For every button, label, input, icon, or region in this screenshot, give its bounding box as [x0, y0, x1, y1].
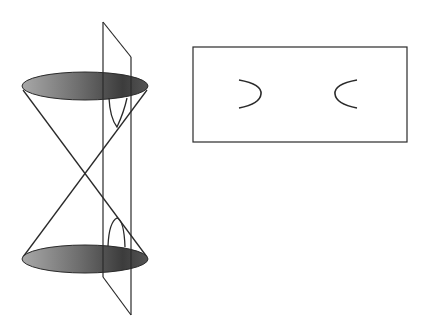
section-view [193, 47, 407, 142]
top-ellipse [22, 72, 148, 100]
upper-hyperbola-arc [109, 98, 127, 127]
section-rect [193, 47, 407, 142]
cone-generators [23, 90, 147, 257]
lower-hyperbola-arc [108, 218, 125, 247]
plane-edge-bottom [103, 277, 131, 315]
plane-edge-top [103, 22, 131, 57]
bottom-ellipse [22, 245, 148, 273]
conic-section-diagram [0, 0, 427, 326]
